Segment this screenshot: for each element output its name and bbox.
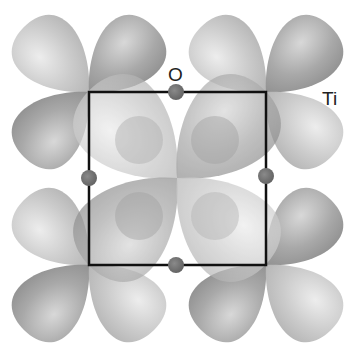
oxygen-atom-left (81, 170, 97, 186)
oxygen-atom-top (168, 84, 184, 100)
oxygen-atom-bottom (168, 257, 184, 273)
titanium-label: Ti (322, 88, 337, 109)
orbital-diagram: O Ti (0, 0, 364, 354)
oxygen-atom-right (258, 168, 274, 184)
oxygen-label: O (168, 64, 183, 85)
